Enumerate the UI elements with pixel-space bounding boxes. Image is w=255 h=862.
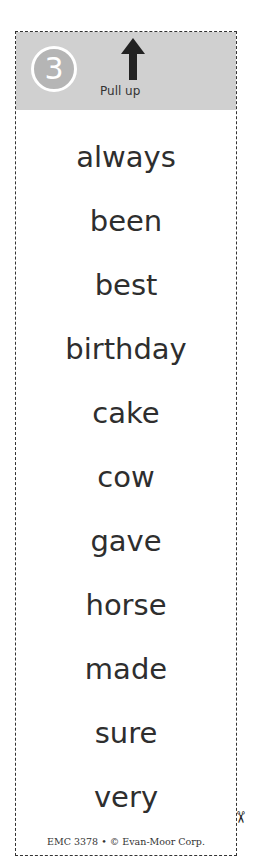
word-item: birthday: [16, 332, 236, 366]
pull-up-label: Pull up: [100, 84, 140, 98]
word-item: gave: [16, 524, 236, 558]
strip-number-badge: 3: [31, 46, 77, 92]
word-item: best: [16, 268, 236, 302]
copyright-footer: EMC 3378 • © Evan-Moor Corp.: [16, 836, 236, 847]
word-item: cake: [16, 396, 236, 430]
word-item: been: [16, 204, 236, 238]
strip-header: 3 Pull up: [16, 32, 236, 110]
scissors-icon: ✂: [231, 811, 250, 824]
word-item: cow: [16, 460, 236, 494]
word-item: horse: [16, 588, 236, 622]
word-item: made: [16, 652, 236, 686]
up-arrow-icon: [121, 38, 145, 80]
word-item: always: [16, 140, 236, 174]
word-item: very: [16, 780, 236, 814]
word-strip-card: 3 Pull up always been best birthday cake…: [15, 31, 237, 856]
word-item: sure: [16, 716, 236, 750]
